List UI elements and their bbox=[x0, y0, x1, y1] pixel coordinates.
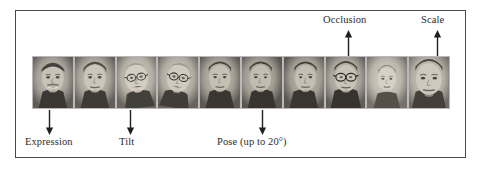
face-tile bbox=[408, 56, 450, 109]
face-image-scale-small bbox=[367, 57, 407, 108]
face-image-tilt-left bbox=[117, 57, 157, 108]
face-image-scale-large bbox=[409, 57, 449, 108]
face-variation-figure: Expression Tilt Pose (up to 20°) Occlusi… bbox=[0, 0, 482, 171]
face-tile bbox=[157, 56, 199, 109]
face-image-occlusion-glasses bbox=[326, 57, 366, 108]
expression-label: Expression bbox=[25, 136, 73, 148]
face-tile bbox=[366, 56, 408, 109]
scale-arrow-up-icon bbox=[432, 29, 443, 56]
pose-label: Pose (up to 20°) bbox=[217, 136, 287, 148]
face-tile bbox=[325, 56, 367, 109]
face-tile bbox=[74, 56, 116, 109]
occlusion-arrow-up-icon bbox=[343, 29, 354, 56]
face-image-strip bbox=[32, 56, 450, 109]
face-image-expression-smiling bbox=[33, 57, 73, 108]
face-tile bbox=[199, 56, 241, 109]
face-tile bbox=[32, 56, 74, 109]
face-image-tilt-right bbox=[158, 57, 198, 108]
expression-arrow-down-icon bbox=[44, 110, 55, 136]
occlusion-label: Occlusion bbox=[323, 14, 366, 26]
face-tile bbox=[283, 56, 325, 109]
scale-label: Scale bbox=[421, 14, 444, 26]
face-image-expression-neutral bbox=[75, 57, 115, 108]
tilt-label: Tilt bbox=[119, 136, 134, 148]
face-tile bbox=[241, 56, 283, 109]
pose-arrow-down-icon bbox=[257, 110, 268, 136]
tilt-arrow-down-icon bbox=[125, 110, 136, 136]
face-image-pose-right bbox=[284, 57, 324, 108]
face-image-pose-left bbox=[242, 57, 282, 108]
face-tile bbox=[116, 56, 158, 109]
face-image-pose-frontal bbox=[200, 57, 240, 108]
